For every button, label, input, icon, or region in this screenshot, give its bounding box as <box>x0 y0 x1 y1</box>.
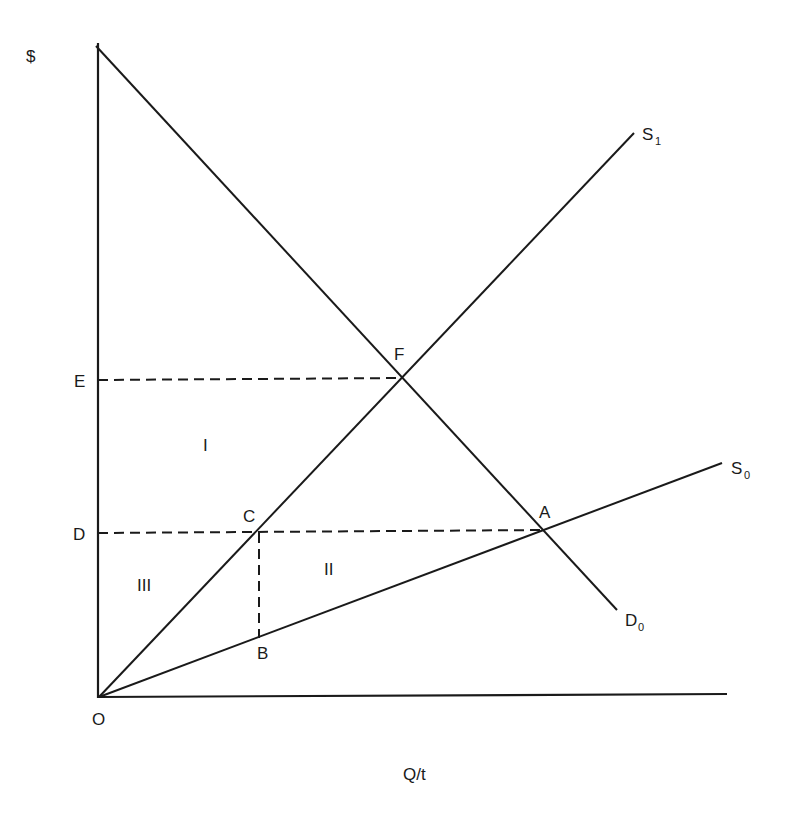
point-label-a: A <box>539 503 551 522</box>
svg-text:S: S <box>731 459 742 478</box>
point-label-c: C <box>243 507 255 526</box>
x-axis <box>98 694 727 697</box>
region-label-i: I <box>203 436 208 455</box>
y-axis-label: $ <box>26 47 36 66</box>
price-line-e <box>98 378 402 380</box>
region-label-iii: III <box>137 576 151 595</box>
region-label-ii: II <box>324 560 333 579</box>
svg-text:S: S <box>642 125 653 144</box>
price-label-d: D <box>73 525 85 544</box>
demand-curve-d0 <box>96 46 617 610</box>
curve-label-s1: S 1 <box>642 125 661 147</box>
svg-text:D: D <box>625 611 637 630</box>
point-label-f: F <box>394 345 404 364</box>
curve-label-d0: D 0 <box>625 611 644 633</box>
supply-demand-diagram: $ Q/t O E D F C A B I II III S 1 S 0 D 0 <box>0 0 788 821</box>
svg-text:0: 0 <box>638 621 644 633</box>
price-label-e: E <box>74 372 85 391</box>
origin-label: O <box>92 710 105 729</box>
svg-text:1: 1 <box>655 135 661 147</box>
supply-curve-s0 <box>99 463 722 697</box>
x-axis-label: Q/t <box>403 765 426 784</box>
svg-text:0: 0 <box>744 469 750 481</box>
curve-label-s0: S 0 <box>731 459 750 481</box>
supply-curve-s1 <box>99 133 634 697</box>
price-line-d <box>98 530 543 533</box>
point-label-b: B <box>257 644 268 663</box>
